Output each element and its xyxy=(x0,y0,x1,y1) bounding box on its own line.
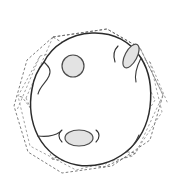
figure-root xyxy=(0,0,179,182)
polyhedron-vesicle-diagram xyxy=(0,0,179,182)
pore-top-center xyxy=(62,55,84,77)
facet-edge-6 xyxy=(18,96,22,97)
pore-bottom-center xyxy=(65,130,93,146)
